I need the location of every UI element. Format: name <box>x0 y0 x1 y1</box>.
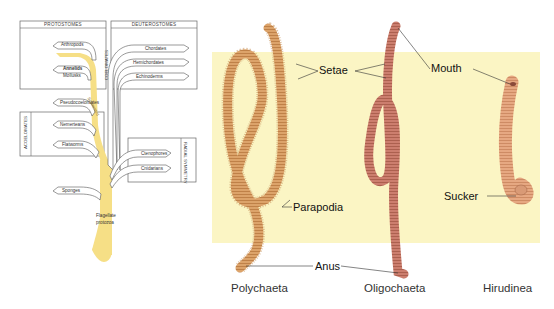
label-sucker: Sucker <box>444 190 478 202</box>
oligochaete-worm <box>369 26 404 274</box>
label-anus: Anus <box>315 260 340 272</box>
annelid-illustrations <box>0 0 554 309</box>
label-parapodia: Parapodia <box>293 201 343 213</box>
caption-polychaeta: Polychaeta <box>231 282 288 294</box>
caption-oligochaeta: Oligochaeta <box>364 282 425 294</box>
caption-hirudinea: Hirudinea <box>483 282 532 294</box>
leech-worm <box>505 82 527 198</box>
polychaete-worm <box>228 28 283 268</box>
label-setae: Setae <box>319 64 348 76</box>
label-mouth: Mouth <box>431 62 462 74</box>
